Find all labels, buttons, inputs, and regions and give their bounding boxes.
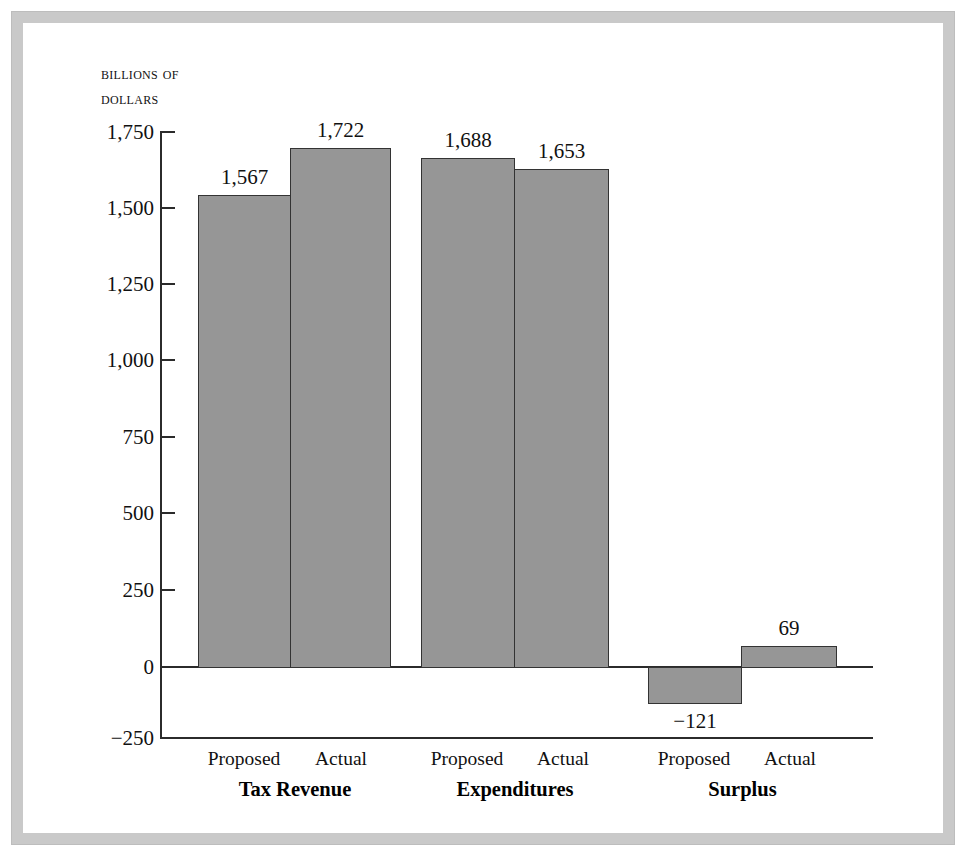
x-sublabel-tax-revenue-proposed: Proposed: [189, 748, 299, 770]
chart-canvas: Billions of dollars 1,750 1,500 1,250 1,…: [23, 23, 943, 833]
y-tick-label-neg250: −250: [76, 726, 154, 751]
bar-tax-revenue-actual[interactable]: [290, 148, 391, 668]
bar-value-tax-revenue-actual: 1,722: [290, 118, 391, 143]
y-axis-line: [160, 131, 162, 738]
bar-value-expenditures-proposed: 1,688: [421, 128, 515, 153]
bar-value-expenditures-actual: 1,653: [514, 139, 609, 164]
x-sublabel-expenditures-proposed: Proposed: [412, 748, 522, 770]
y-axis-title: Billions of dollars: [101, 61, 271, 111]
bar-surplus-proposed[interactable]: [648, 667, 742, 704]
y-tick-label-1500: 1,500: [76, 196, 154, 221]
x-group-label-tax-revenue: Tax Revenue: [198, 778, 392, 801]
y-tick-label-0: 0: [76, 655, 154, 680]
y-axis-title-line-1: Billions of: [101, 61, 271, 86]
y-tick-label-500: 500: [76, 501, 154, 526]
y-tick-label-250: 250: [76, 578, 154, 603]
y-tick-label-1250: 1,250: [76, 272, 154, 297]
y-axis-title-line-2: dollars: [101, 86, 271, 111]
x-sublabel-surplus-proposed: Proposed: [639, 748, 749, 770]
y-tick-mark-1500: [162, 207, 175, 209]
x-group-label-surplus: Surplus: [648, 778, 837, 801]
bar-tax-revenue-proposed[interactable]: [198, 195, 291, 668]
x-sublabel-expenditures-actual: Actual: [518, 748, 608, 770]
x-sublabel-surplus-actual: Actual: [745, 748, 835, 770]
bottom-axis-line: [160, 737, 873, 739]
y-tick-mark-1750: [162, 131, 175, 133]
x-group-label-expenditures: Expenditures: [421, 778, 609, 801]
y-tick-mark-1250: [162, 283, 175, 285]
y-tick-mark-1000: [162, 359, 175, 361]
chart-page: Billions of dollars 1,750 1,500 1,250 1,…: [0, 0, 968, 856]
bar-expenditures-actual[interactable]: [514, 169, 609, 668]
bar-value-surplus-actual: 69: [741, 616, 837, 641]
y-tick-label-750: 750: [76, 425, 154, 450]
y-tick-label-1750: 1,750: [76, 120, 154, 145]
y-tick-mark-500: [162, 512, 175, 514]
x-sublabel-tax-revenue-actual: Actual: [296, 748, 386, 770]
y-tick-mark-250: [162, 589, 175, 591]
bar-value-tax-revenue-proposed: 1,567: [198, 165, 291, 190]
y-tick-mark-750: [162, 436, 175, 438]
y-tick-label-1000: 1,000: [76, 348, 154, 373]
bar-surplus-actual[interactable]: [741, 646, 837, 668]
bar-value-surplus-proposed: −121: [648, 709, 742, 734]
bar-expenditures-proposed[interactable]: [421, 158, 515, 668]
